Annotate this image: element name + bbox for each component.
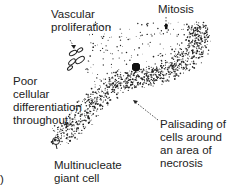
mitosis-label: Mitosis (158, 3, 194, 16)
poor-differentiation-label: Poor cellular differentiation throughout (13, 75, 82, 127)
panel-letter: ) (0, 173, 4, 186)
palisading-arrow (134, 101, 158, 120)
mitosis-figure-icon (165, 24, 168, 29)
palisading-label: Palisading of cells around an area of ne… (160, 118, 226, 170)
blood-vessels-icon (67, 47, 86, 71)
multinucleate-label: Multinucleate giant cell (54, 159, 122, 185)
vascular-proliferation-label: Vascular proliferation (51, 8, 111, 34)
giant-cell-icon (53, 138, 60, 150)
